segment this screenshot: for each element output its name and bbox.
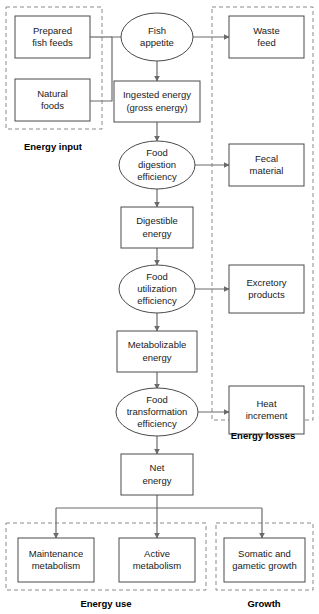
node-label-line: material <box>250 165 284 176</box>
node-fecal-material[interactable]: Fecal material <box>229 144 304 186</box>
energy-budget-flowchart: Prepared fish feeds Natural foods Fish a… <box>0 0 319 614</box>
node-somatic-gametic-growth[interactable]: Somatic and gametic growth <box>224 538 305 582</box>
node-label-line: digestion <box>138 159 176 170</box>
node-ingested-energy[interactable]: Ingested energy (gross energy) <box>114 81 200 122</box>
node-label-line: feed <box>257 37 276 48</box>
node-food-digestion-efficiency[interactable]: Food digestion efficiency <box>119 141 195 189</box>
node-net-energy[interactable]: Net energy <box>121 454 193 495</box>
node-label-line: efficiency <box>137 418 177 429</box>
node-label-line: appetite <box>140 37 174 48</box>
node-label-line: (gross energy) <box>126 102 187 113</box>
node-food-transformation-efficiency[interactable]: Food transformation efficiency <box>116 388 198 436</box>
node-waste-feed[interactable]: Waste feed <box>229 16 304 58</box>
node-label-line: Food <box>146 147 168 158</box>
node-label-line: transformation <box>127 406 188 417</box>
node-label-line: metabolism <box>32 560 81 571</box>
node-label-line: Somatic and <box>238 548 291 559</box>
node-label-line: Metabolizable <box>128 339 187 350</box>
node-label-line: Natural <box>37 88 68 99</box>
node-label-line: efficiency <box>137 171 177 182</box>
node-label-line: Active <box>144 548 170 559</box>
node-label-line: Fecal <box>255 153 278 164</box>
node-label-line: fish feeds <box>32 37 73 48</box>
node-label-line: products <box>248 289 285 300</box>
node-label-line: Food <box>146 394 168 405</box>
node-label-line: Fish <box>148 25 166 36</box>
node-label-line: Ingested energy <box>123 89 191 100</box>
node-label-line: Maintenance <box>29 548 83 559</box>
node-label-line: Excretory <box>246 277 286 288</box>
node-label-line: efficiency <box>137 295 177 306</box>
node-label-line: Waste <box>253 25 280 36</box>
group-label-energy-use: Energy use <box>80 598 131 609</box>
group-label-energy-losses: Energy losses <box>231 430 295 441</box>
node-label-line: metabolism <box>133 560 182 571</box>
node-label-line: energy <box>142 475 171 486</box>
node-excretory-products[interactable]: Excretory products <box>229 265 304 313</box>
node-maintenance-metabolism[interactable]: Maintenance metabolism <box>18 538 94 582</box>
group-label-energy-input: Energy input <box>24 141 83 152</box>
group-label-growth: Growth <box>247 598 280 609</box>
node-label-line: energy <box>142 228 171 239</box>
group-box-energy-losses <box>212 7 313 420</box>
node-fish-appetite[interactable]: Fish appetite <box>121 13 193 61</box>
node-natural-foods[interactable]: Natural foods <box>15 79 90 121</box>
node-label-line: utilization <box>137 283 177 294</box>
node-prepared-fish-feeds[interactable]: Prepared fish feeds <box>15 16 90 58</box>
node-label-line: gametic growth <box>232 560 296 571</box>
node-label-line: Heat <box>256 398 276 409</box>
node-label-line: Food <box>146 271 168 282</box>
node-heat-increment[interactable]: Heat increment <box>229 386 304 434</box>
node-food-utilization-efficiency[interactable]: Food utilization efficiency <box>119 265 195 313</box>
node-label-line: Net <box>150 462 165 473</box>
node-label-line: foods <box>41 100 64 111</box>
node-label-line: Digestible <box>136 215 178 226</box>
node-digestible-energy[interactable]: Digestible energy <box>121 207 193 248</box>
node-active-metabolism[interactable]: Active metabolism <box>119 538 195 582</box>
node-label-line: Prepared <box>33 25 72 36</box>
node-metabolizable-energy[interactable]: Metabolizable energy <box>117 331 197 372</box>
node-label-line: energy <box>142 352 171 363</box>
node-label-line: increment <box>246 410 288 421</box>
